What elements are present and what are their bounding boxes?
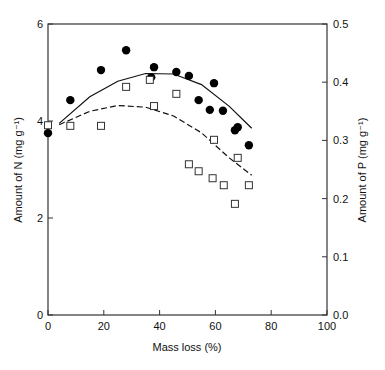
data-point-n <box>219 107 227 115</box>
x-tick-label: 40 <box>153 320 165 332</box>
data-point-p <box>220 182 227 189</box>
x-tick-label: 0 <box>45 320 51 332</box>
data-point-p <box>146 76 153 83</box>
data-point-n <box>66 96 74 104</box>
data-point-n <box>210 79 218 87</box>
scatter-chart: 020406080100 0246 0.00.10.20.30.40.5 Mas… <box>0 0 385 370</box>
plot-border <box>48 24 327 315</box>
y-tick-label: 0 <box>37 309 43 321</box>
data-point-n <box>172 68 180 76</box>
y-right-tick-label: 0.5 <box>333 18 348 30</box>
data-point-n <box>206 106 214 114</box>
y-right-tick-label: 0.3 <box>333 134 348 146</box>
x-tick-label: 80 <box>265 320 277 332</box>
data-point-p <box>195 168 202 175</box>
data-point-n <box>44 129 52 137</box>
y-right-tick-label: 0.4 <box>333 76 348 88</box>
y-axis-left: 0246 <box>37 18 53 321</box>
data-point-p <box>185 161 192 168</box>
fit-line-p <box>59 106 252 176</box>
data-point-n <box>97 66 105 74</box>
y-tick-label: 2 <box>37 212 43 224</box>
x-tick-label: 60 <box>209 320 221 332</box>
data-point-n <box>122 46 130 54</box>
data-point-p <box>231 200 238 207</box>
data-point-p <box>45 122 52 129</box>
y-axis-left-label: Amount of N (mg g⁻¹) <box>12 117 24 223</box>
data-point-p <box>245 182 252 189</box>
data-point-p <box>123 83 130 90</box>
plot-frame <box>48 24 327 315</box>
data-point-p <box>173 90 180 97</box>
y-right-tick-label: 0.2 <box>333 193 348 205</box>
y-right-tick-label: 0.0 <box>333 309 348 321</box>
x-axis-label: Mass loss (%) <box>152 341 221 353</box>
x-tick-label: 100 <box>318 320 336 332</box>
fit-line-n <box>59 74 252 129</box>
y-right-tick-label: 0.1 <box>333 251 348 263</box>
data-point-p <box>67 122 74 129</box>
x-axis: 020406080100 <box>45 310 336 332</box>
data-point-p <box>209 175 216 182</box>
data-point-n <box>185 72 193 80</box>
data-point-n <box>194 96 202 104</box>
data-points <box>44 46 253 207</box>
data-point-p <box>98 122 105 129</box>
y-axis-right-label: Amount of P (mg g⁻¹) <box>356 118 368 223</box>
data-point-n <box>245 141 253 149</box>
fit-curves <box>59 74 252 176</box>
y-tick-label: 6 <box>37 18 43 30</box>
data-point-p <box>234 154 241 161</box>
x-tick-label: 20 <box>98 320 110 332</box>
data-point-p <box>151 103 158 110</box>
y-tick-label: 4 <box>37 115 43 127</box>
data-point-p <box>211 136 218 143</box>
data-point-n <box>234 123 242 131</box>
y-axis-right: 0.00.10.20.30.40.5 <box>322 18 348 321</box>
data-point-n <box>150 63 158 71</box>
